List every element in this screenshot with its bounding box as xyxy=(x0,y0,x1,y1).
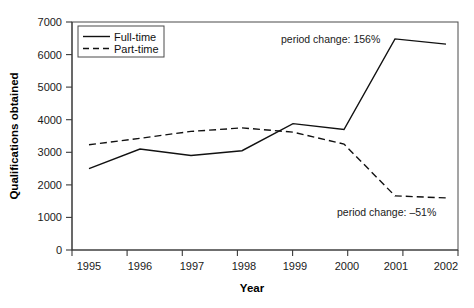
legend-label-part-time: Part-time xyxy=(114,43,159,55)
annotation-full-time: period change: 156% xyxy=(281,33,380,45)
x-tick-label: 1998 xyxy=(232,260,256,272)
x-tick-label: 2002 xyxy=(434,260,458,272)
y-tick-label: 7000 xyxy=(38,16,62,28)
x-axis-title: Year xyxy=(240,282,265,294)
y-tick-label: 6000 xyxy=(38,49,62,61)
y-tick-label: 4000 xyxy=(38,114,62,126)
annotation-part-time: period change: –51% xyxy=(337,206,436,218)
x-tick-label: 2000 xyxy=(335,260,359,272)
x-tick-labels: 1995 1996 1997 1998 1999 2000 2001 2002 xyxy=(77,260,458,272)
y-tick-label: 5000 xyxy=(38,81,62,93)
x-tick-label: 2001 xyxy=(384,260,408,272)
y-tick-label: 1000 xyxy=(38,211,62,223)
series-line-part-time xyxy=(89,128,446,198)
x-tick-label: 1999 xyxy=(283,260,307,272)
y-tick-label: 2000 xyxy=(38,179,62,191)
line-chart: 0 1000 2000 3000 4000 5000 6000 7000 199… xyxy=(0,0,474,308)
legend-label-full-time: Full-time xyxy=(114,31,156,43)
series-line-full-time xyxy=(89,39,446,169)
chart-canvas: 0 1000 2000 3000 4000 5000 6000 7000 199… xyxy=(0,0,474,308)
y-tick-labels: 0 1000 2000 3000 4000 5000 6000 7000 xyxy=(38,16,62,256)
y-tick-label: 0 xyxy=(56,244,62,256)
x-tickmarks xyxy=(72,250,458,256)
legend: Full-time Part-time xyxy=(78,26,164,57)
x-tick-label: 1995 xyxy=(77,260,101,272)
x-tick-label: 1996 xyxy=(128,260,152,272)
x-tick-label: 1997 xyxy=(180,260,204,272)
y-tickmarks xyxy=(66,22,72,250)
y-axis-title: Qualifications obtained xyxy=(8,72,20,199)
y-tick-label: 3000 xyxy=(38,146,62,158)
